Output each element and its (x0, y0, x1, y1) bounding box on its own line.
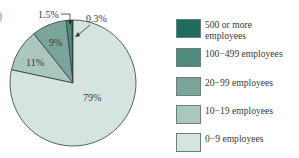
legend-swatch (176, 19, 201, 38)
pie-slices (10, 20, 136, 146)
slice-label-10-19: 11% (26, 57, 44, 68)
legend-label: 0−9 employees (205, 134, 299, 145)
pie-chart: 79% 11% 9% 1.5% 0.3% (0, 0, 160, 158)
slice-label-20-99: 9% (49, 37, 62, 48)
legend-label: 100−499 employees (205, 49, 299, 60)
legend-label: 10−19 employees (205, 106, 299, 117)
legend-item-100-499: 100−499 employees (176, 48, 299, 67)
slice-label-0-9: 79% (83, 92, 101, 103)
legend-swatch (176, 48, 201, 67)
legend-swatch (176, 133, 201, 152)
legend-item-20-99: 20−99 employees (176, 77, 299, 96)
legend-swatch (176, 77, 201, 96)
legend-item-500-plus: 500 or more employees (176, 19, 267, 41)
legend-swatch (176, 105, 201, 124)
slice-label-500-plus: 0.3% (86, 13, 107, 24)
legend-label: 20−99 employees (205, 78, 299, 89)
legend-label: 500 or more employees (205, 20, 267, 41)
slice-label-100-499: 1.5% (38, 9, 59, 20)
legend-item-10-19: 10−19 employees (176, 105, 299, 124)
legend-item-0-9: 0−9 employees (176, 133, 299, 152)
